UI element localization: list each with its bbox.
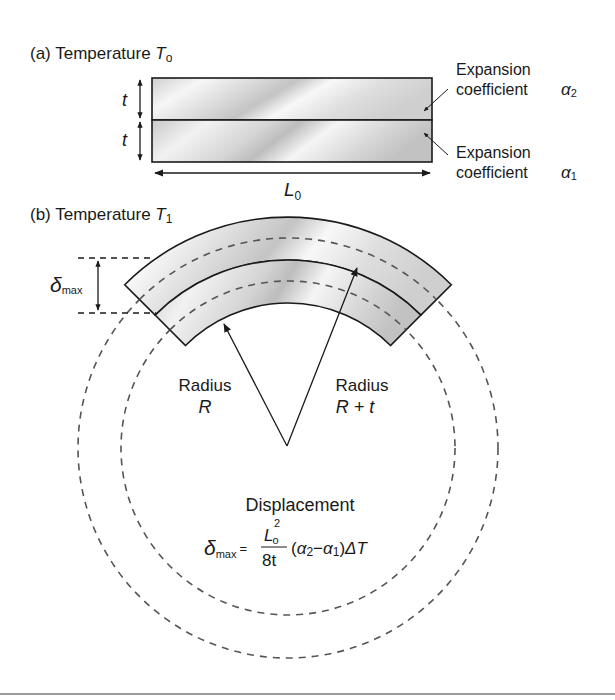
svg-text:R: R [199, 397, 212, 417]
top-layer-alpha2 [152, 78, 432, 120]
svg-text:α1: α1 [561, 163, 577, 182]
panel-b-title: (b) Temperature T1 [30, 205, 173, 226]
label-alpha1: Expansion coefficient α1 [456, 144, 577, 182]
panel-a-title: (a) Temperature To [30, 44, 173, 65]
radius-r-plus-t-label: Radius R + t [336, 376, 389, 417]
svg-text:coefficient: coefficient [456, 81, 528, 98]
svg-text:Expansion: Expansion [456, 61, 531, 78]
delta-max-label: δmax [50, 273, 83, 296]
bimetal-strip-flat [152, 78, 432, 162]
displacement-formula: δmax= Lo 2 8t (α2−α1)ΔT [204, 517, 368, 570]
thickness-label-top: t [122, 90, 128, 110]
length-label: L0 [284, 179, 302, 203]
svg-text:2: 2 [274, 517, 280, 529]
svg-text:8t: 8t [262, 551, 276, 570]
svg-text:(α2−α1)ΔT: (α2−α1)ΔT [291, 539, 368, 559]
svg-text:R + t: R + t [336, 397, 376, 417]
svg-text:Lo: Lo [264, 526, 279, 546]
displacement-title: Displacement [245, 495, 354, 515]
svg-text:α2: α2 [561, 80, 577, 99]
radius-r-arrow [224, 324, 287, 446]
label-alpha2: Expansion coefficient α2 [456, 61, 577, 99]
radius-r-label: Radius R [179, 376, 232, 417]
svg-text:Radius: Radius [336, 376, 389, 395]
svg-text:δmax=: δmax= [204, 536, 247, 560]
bimetal-diagram: (a) Temperature To t t L0 Expansion coef… [0, 0, 615, 700]
svg-text:Radius: Radius [179, 376, 232, 395]
bottom-divider [0, 693, 615, 695]
svg-text:coefficient: coefficient [456, 164, 528, 181]
thickness-label-bottom: t [122, 130, 128, 150]
bottom-layer-alpha1 [152, 120, 432, 162]
svg-text:Expansion: Expansion [456, 144, 531, 161]
